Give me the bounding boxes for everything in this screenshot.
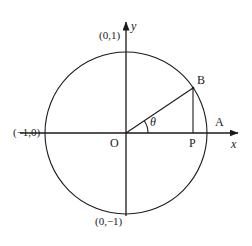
label-left-point: (−1,0) [13, 127, 40, 138]
label-point-p: P [189, 137, 196, 149]
angle-arc [144, 121, 148, 133]
label-x-axis: x [231, 138, 236, 150]
label-point-a: A [215, 116, 224, 128]
label-origin: O [110, 137, 119, 149]
unit-circle-figure: (0,1) (−1,0) (0,−1) O A B P θ x y [0, 0, 252, 246]
label-y-axis: y [131, 20, 136, 32]
point-b-marker [192, 87, 195, 90]
label-top-point: (0,1) [99, 30, 120, 41]
radius-ob-line [126, 88, 193, 133]
label-point-b: B [197, 74, 205, 86]
label-angle-theta: θ [150, 116, 156, 128]
label-bottom-point: (0,−1) [95, 216, 122, 227]
